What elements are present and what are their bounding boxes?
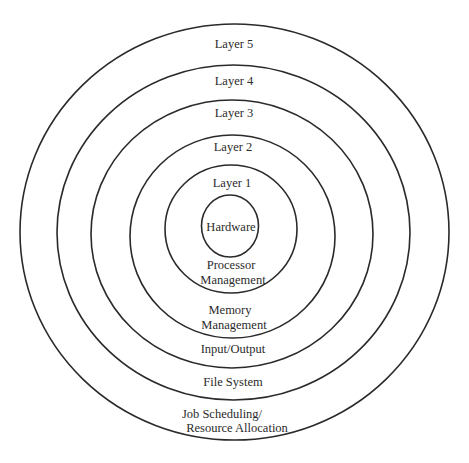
label-layer-5: Layer 5 [215,37,254,51]
function-layer-1-line-2: Management [200,273,266,287]
os-layers-diagram: Layer 5 Layer 4 Layer 3 Layer 2 Layer 1 … [0,0,469,463]
label-layer-2: Layer 2 [214,140,253,154]
function-layer-1-line-1: Processor [207,258,256,272]
function-layer-2-line-2: Management [201,318,267,332]
label-layer-3: Layer 3 [215,106,254,120]
function-layer-4: File System [203,375,263,389]
label-layer-4: Layer 4 [215,74,254,88]
function-layer-5-line-1: Job Scheduling/ [182,407,263,421]
function-layer-5-line-2: Resource Allocation [186,421,288,435]
function-layer-2-line-1: Memory [208,303,252,317]
label-hardware: Hardware [206,220,256,234]
function-layer-3: Input/Output [201,342,266,356]
label-layer-1: Layer 1 [213,176,252,190]
